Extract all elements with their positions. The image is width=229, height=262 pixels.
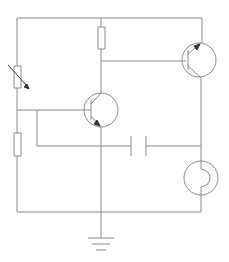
t2-emitter-arrow-icon [194,44,200,50]
resistor-top [98,27,105,49]
circuit-diagram [0,0,229,262]
lamp [184,160,218,196]
transistor-t2-pnp [182,43,216,78]
capacitor [131,136,146,156]
ground-symbol [88,238,114,250]
variable-resistor-arrow-icon [8,65,28,87]
arrowhead-icon [24,84,29,89]
variable-resistor [14,66,21,88]
resistor-bottom-left [14,133,21,156]
